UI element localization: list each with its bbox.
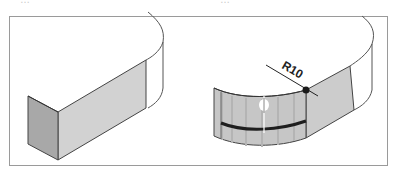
right-block: R10 xyxy=(214,16,374,147)
radius-dimension-label: R10 xyxy=(280,58,306,81)
fillet-diagram: R10 xyxy=(0,0,396,169)
fillet-center-dot xyxy=(303,87,310,94)
left-end-face xyxy=(28,96,58,160)
left-block xyxy=(28,12,163,160)
left-front-face xyxy=(58,60,146,160)
right-flat-face xyxy=(306,66,354,138)
